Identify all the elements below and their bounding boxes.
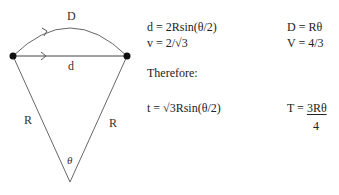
equation-arc-length: D = Rθ [287, 20, 322, 34]
radius-left [13, 56, 70, 182]
chord-label: d [68, 59, 74, 73]
sector-diagram: D d R R θ [0, 0, 140, 195]
equation-time-arc: T = 3Rθ [287, 101, 327, 115]
time-arc-numerator: 3Rθ [307, 101, 327, 115]
equation-slow-speed: v = 2/√3 [147, 36, 188, 50]
time-arc-prefix: T = [287, 101, 307, 115]
arc-label: D [67, 9, 76, 23]
time-arc-denominator: 4 [313, 119, 319, 133]
equation-chord-length: d = 2Rsin(θ/2) [147, 20, 217, 34]
left-radius-label: R [24, 113, 32, 127]
right-radius-label: R [109, 116, 117, 130]
left-endpoint-dot [10, 53, 17, 60]
right-endpoint-dot [124, 53, 131, 60]
arc-path-D [13, 28, 127, 56]
therefore-label: Therefore: [147, 66, 198, 80]
angle-label: θ [67, 154, 73, 166]
equation-fast-speed: V = 4/3 [287, 36, 324, 50]
equation-time-chord: t = √3Rsin(θ/2) [147, 101, 221, 115]
radius-right [70, 56, 127, 182]
